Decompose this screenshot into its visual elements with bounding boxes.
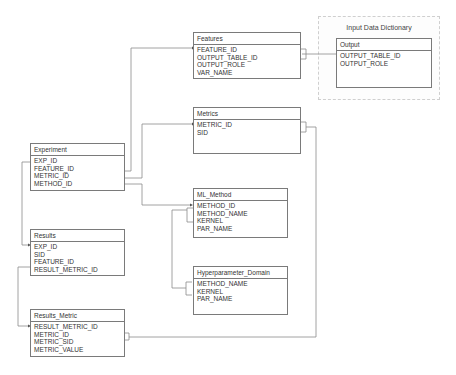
attr-exp-id: EXP_ID xyxy=(34,243,121,251)
entity-title: Features xyxy=(194,33,300,45)
link-experiment-results xyxy=(22,162,30,245)
attr-method-name: METHOD_NAME xyxy=(197,280,284,288)
entity-metrics[interactable]: Metrics METRIC_ID SID xyxy=(193,107,301,154)
attr-exp-id: EXP_ID xyxy=(34,157,121,165)
entity-results[interactable]: Results EXP_ID SID FEATURE_ID RESULT_MET… xyxy=(30,229,125,276)
entity-title: Output xyxy=(337,39,431,51)
link-mlmethod-hyperparam xyxy=(172,210,187,288)
attr-par-name: PAR_NAME xyxy=(197,225,284,233)
attr-sid: SID xyxy=(197,129,297,137)
attr-method-id: METHOD_ID xyxy=(197,202,284,210)
attr-output-table-id: OUTPUT_TABLE_ID xyxy=(197,54,297,62)
entity-title: ML_Method xyxy=(194,189,287,201)
attr-result-metric-id: RESULT_METRIC_ID xyxy=(34,266,121,274)
attr-par-name: PAR_NAME xyxy=(197,295,284,303)
link-experiment-features xyxy=(124,48,195,171)
entity-results-metric[interactable]: Results_Metric RESULT_METRIC_ID METRIC_I… xyxy=(30,309,125,357)
entity-features[interactable]: Features FEATURE_ID OUTPUT_TABLE_ID OUTP… xyxy=(193,32,301,79)
entity-ml-method[interactable]: ML_Method METHOD_ID METHOD_NAME KERNEL P… xyxy=(193,188,288,238)
entity-output[interactable]: Output OUTPUT_TABLE_ID OUTPUT_ROLE xyxy=(336,38,432,88)
attr-output-role: OUTPUT_ROLE xyxy=(197,61,297,69)
attr-kernel: KERNEL xyxy=(197,217,284,225)
link-results-resultsmetric xyxy=(18,267,30,326)
entity-title: Results_Metric xyxy=(31,310,124,322)
entity-experiment[interactable]: Experiment EXP_ID FEATURE_ID METRIC_ID M… xyxy=(30,143,125,191)
group-title: Input Data Dictionary xyxy=(319,24,439,31)
entity-title: Results xyxy=(31,230,124,242)
attr-method-name: METHOD_NAME xyxy=(197,210,284,218)
entity-title: Hyperparameter_Domain xyxy=(194,267,287,279)
attr-var-name: VAR_NAME xyxy=(197,69,297,77)
attr-method-id: METHOD_ID xyxy=(34,180,121,188)
attr-metric-value: METRIC_VALUE xyxy=(34,346,121,354)
entity-title: Experiment xyxy=(31,144,124,156)
entity-hyperparameter-domain[interactable]: Hyperparameter_Domain METHOD_NAME KERNEL… xyxy=(193,266,288,315)
link-experiment-metrics xyxy=(124,124,195,178)
attr-output-table-id: OUTPUT_TABLE_ID xyxy=(340,52,428,60)
er-diagram: Input Data Dictionary xyxy=(0,0,456,375)
entity-title: Metrics xyxy=(194,108,300,120)
attr-metric-id: METRIC_ID xyxy=(197,121,297,129)
attr-sid: SID xyxy=(34,251,121,259)
attr-kernel: KERNEL xyxy=(197,288,284,296)
attr-feature-id: FEATURE_ID xyxy=(197,46,297,54)
attr-feature-id: FEATURE_ID xyxy=(34,165,121,173)
attr-metric-id: METRIC_ID xyxy=(34,331,121,339)
attr-feature-id: FEATURE_ID xyxy=(34,258,121,266)
attr-metric-id: METRIC_ID xyxy=(34,172,121,180)
link-experiment-mlmethod xyxy=(124,184,191,205)
attr-output-role: OUTPUT_ROLE xyxy=(340,60,428,68)
attr-metric-sid: METRIC_SID xyxy=(34,338,121,346)
attr-result-metric-id: RESULT_METRIC_ID xyxy=(34,323,121,331)
